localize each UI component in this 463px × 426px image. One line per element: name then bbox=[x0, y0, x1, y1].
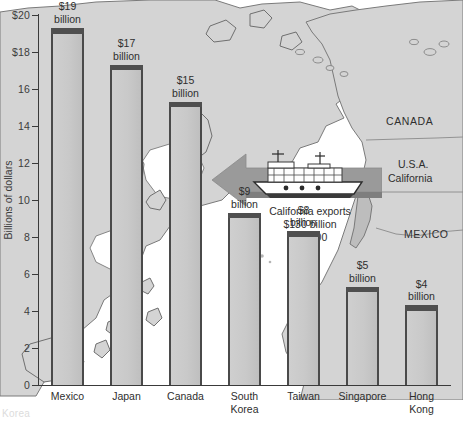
bar bbox=[51, 34, 84, 385]
bar-value-unit: billion bbox=[408, 290, 435, 303]
bar-value-label: $8billion bbox=[290, 204, 317, 229]
bar-value-amount: $19 bbox=[54, 0, 81, 13]
bar bbox=[228, 218, 261, 384]
y-tick-label: 0 bbox=[24, 379, 30, 391]
x-axis-category-label: Japan bbox=[112, 390, 141, 403]
bar-top-cap bbox=[110, 65, 143, 71]
bar-value-amount: $17 bbox=[113, 37, 140, 50]
bar-group bbox=[228, 218, 261, 384]
bar-value-label: $4billion bbox=[408, 278, 435, 303]
bar-top-cap bbox=[228, 213, 261, 219]
bar-top-cap bbox=[51, 28, 84, 34]
caption-strip: Korea bbox=[0, 408, 463, 426]
bar-value-unit: billion bbox=[113, 50, 140, 63]
y-tick-label: 6 bbox=[24, 268, 30, 280]
bar-value-unit: billion bbox=[231, 198, 258, 211]
category-label-line: South bbox=[230, 390, 258, 403]
y-tick-label: $18 bbox=[12, 46, 30, 58]
category-label-line: Taiwan bbox=[287, 390, 320, 403]
y-tick-label: 8 bbox=[24, 231, 30, 243]
bar-value-label: $9billion bbox=[231, 185, 258, 210]
category-label-line: Japan bbox=[112, 390, 141, 403]
y-tick-mark bbox=[32, 126, 38, 127]
bar-value-label: $17billion bbox=[113, 37, 140, 62]
y-tick-label: 12 bbox=[18, 157, 30, 169]
y-tick-mark bbox=[32, 163, 38, 164]
bar-value-label: $19billion bbox=[54, 0, 81, 25]
bar-value-amount: $5 bbox=[349, 259, 376, 272]
y-tick-mark bbox=[32, 237, 38, 238]
plot-area: Billions of dollars 0246810121416$18$20 … bbox=[38, 14, 451, 386]
bar bbox=[346, 292, 379, 384]
y-tick-mark bbox=[32, 89, 38, 90]
bar bbox=[110, 70, 143, 384]
y-tick-label: 10 bbox=[18, 194, 30, 206]
bar-value-amount: $9 bbox=[231, 185, 258, 198]
bar-top-cap bbox=[346, 287, 379, 293]
x-axis-category-label: Singapore bbox=[339, 390, 387, 403]
caption-fragment: Korea bbox=[0, 408, 463, 419]
y-tick-label: 16 bbox=[18, 83, 30, 95]
bar-value-label: $15billion bbox=[172, 74, 199, 99]
y-tick-mark bbox=[32, 15, 38, 16]
bar-value-unit: billion bbox=[290, 216, 317, 229]
bar bbox=[405, 311, 438, 385]
bar-group bbox=[287, 237, 320, 385]
y-tick-mark bbox=[32, 274, 38, 275]
bar-value-amount: $8 bbox=[290, 204, 317, 217]
category-label-line: Singapore bbox=[339, 390, 387, 403]
y-axis-line bbox=[38, 14, 39, 386]
y-tick-mark bbox=[32, 385, 38, 386]
x-axis-category-label: Canada bbox=[167, 390, 204, 403]
y-tick-mark bbox=[32, 311, 38, 312]
bar-top-cap bbox=[169, 102, 202, 108]
bar-value-unit: billion bbox=[349, 272, 376, 285]
bar bbox=[287, 237, 320, 385]
bar-group bbox=[405, 311, 438, 385]
bar-group bbox=[51, 34, 84, 385]
category-label-line: Hong bbox=[409, 390, 434, 403]
y-tick-label: 4 bbox=[24, 305, 30, 317]
bar-value-label: $5billion bbox=[349, 259, 376, 284]
y-tick-label: $20 bbox=[12, 9, 30, 21]
y-axis-title: Billions of dollars bbox=[2, 161, 14, 240]
bar-group bbox=[169, 107, 202, 384]
category-label-line: Mexico bbox=[51, 390, 84, 403]
bar-group bbox=[346, 292, 379, 384]
y-tick-label: 2 bbox=[24, 342, 30, 354]
y-tick-mark bbox=[32, 200, 38, 201]
bar-top-cap bbox=[287, 231, 320, 237]
bar-value-amount: $15 bbox=[172, 74, 199, 87]
chart-figure: CANADA U.S.A. California MEXICO bbox=[0, 0, 463, 426]
bar-group bbox=[110, 70, 143, 384]
y-tick-mark bbox=[32, 52, 38, 53]
y-tick-mark bbox=[32, 348, 38, 349]
bar bbox=[169, 107, 202, 384]
x-axis-category-label: Mexico bbox=[51, 390, 84, 403]
bar-value-amount: $4 bbox=[408, 278, 435, 291]
bar-value-unit: billion bbox=[172, 87, 199, 100]
bar-top-cap bbox=[405, 305, 438, 311]
y-tick-label: 14 bbox=[18, 120, 30, 132]
bar-value-unit: billion bbox=[54, 13, 81, 26]
x-axis-line bbox=[38, 385, 451, 386]
category-label-line: Canada bbox=[167, 390, 204, 403]
x-axis-category-label: Taiwan bbox=[287, 390, 320, 403]
